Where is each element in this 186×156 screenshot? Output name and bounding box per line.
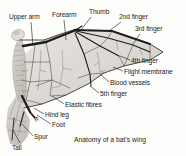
- label-spur: Spur: [34, 133, 48, 141]
- label-fourth-finger: 4th finger: [131, 57, 158, 65]
- leader-upper-arm: [31, 22, 33, 46]
- label-foot: Foot: [52, 121, 65, 129]
- label-upper-arm: Upper arm: [9, 13, 40, 21]
- leader-fifth-finger: [90, 86, 99, 93]
- label-third-finger: 3rd finger: [135, 25, 162, 33]
- bat-wing-anatomy-figure: Upper armForearmThumb2nd finger3rd finge…: [0, 0, 186, 156]
- leader-thumb: [81, 17, 91, 30]
- label-tail: Tail: [12, 144, 22, 152]
- label-elastic-fibres: Elastic fibres: [65, 101, 102, 109]
- leader-blood-vessels: [100, 74, 109, 82]
- label-thumb: Thumb: [89, 8, 109, 16]
- label-blood-vessels: Blood vessels: [110, 79, 150, 87]
- foot-shape: [30, 112, 34, 117]
- leader-second-finger: [109, 22, 121, 31]
- figure-caption: Anatomy of a bat's wing: [74, 136, 146, 143]
- leader-hind-leg: [34, 108, 44, 114]
- label-flight-membrane: Flight membrane: [124, 68, 173, 76]
- label-fifth-finger: 5th finger: [100, 90, 127, 98]
- label-second-finger: 2nd finger: [119, 13, 148, 21]
- label-hind-leg: Hind leg: [45, 111, 69, 119]
- bat-wing-illustration: [0, 0, 186, 156]
- label-forearm: Forearm: [52, 11, 77, 19]
